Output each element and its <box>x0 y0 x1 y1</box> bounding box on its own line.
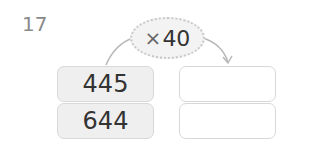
multiply-icon: × <box>145 26 162 50</box>
answer-box-1[interactable] <box>179 66 276 102</box>
operand: 40 <box>162 26 190 51</box>
input-box-2: 644 <box>57 103 154 139</box>
answer-box-2[interactable] <box>179 103 276 139</box>
operation-oval: × 40 <box>130 17 205 59</box>
input-box-1: 445 <box>57 66 154 102</box>
